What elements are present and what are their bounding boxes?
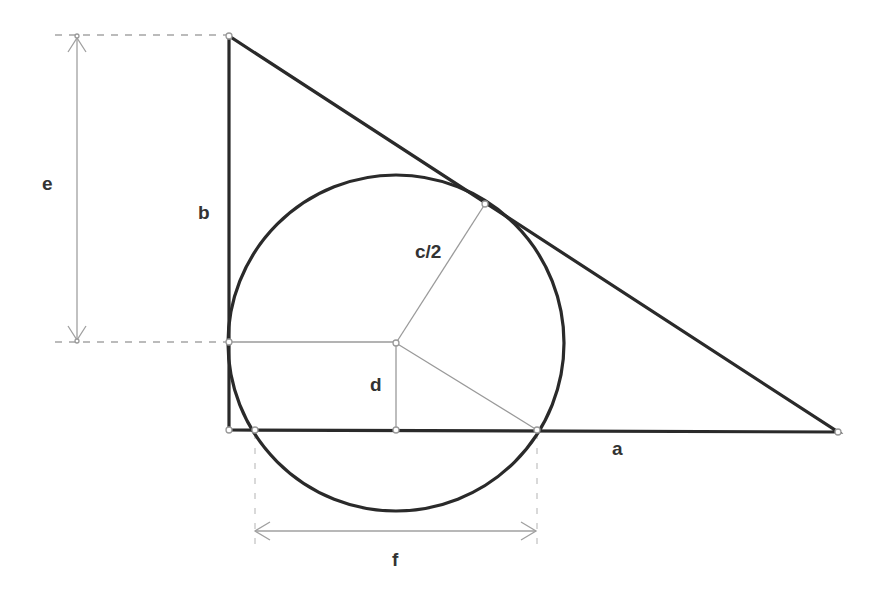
dimension-e-arrow bbox=[68, 38, 86, 340]
dimension-f-arrow bbox=[255, 522, 536, 540]
label-f: f bbox=[392, 549, 399, 570]
label-c-half: c/2 bbox=[415, 241, 441, 262]
geometry-diagram: e b c/2 d a f bbox=[0, 0, 887, 609]
radius-to-base-intersection bbox=[396, 343, 537, 430]
label-a: a bbox=[612, 438, 623, 459]
label-d: d bbox=[370, 374, 382, 395]
construction-points bbox=[75, 33, 841, 435]
label-b: b bbox=[198, 202, 210, 223]
right-triangle bbox=[229, 36, 838, 432]
radius-to-hypotenuse bbox=[396, 204, 485, 343]
label-e: e bbox=[42, 173, 53, 194]
